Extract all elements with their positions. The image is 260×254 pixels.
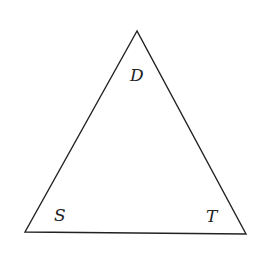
vertex-label-t: T xyxy=(206,206,219,226)
vertex-label-d: D xyxy=(129,65,144,85)
triangle-shape xyxy=(25,31,246,234)
triangle-figure: D S T xyxy=(0,0,260,254)
vertex-label-s: S xyxy=(54,205,66,225)
diagram-canvas: D S T xyxy=(0,0,260,254)
